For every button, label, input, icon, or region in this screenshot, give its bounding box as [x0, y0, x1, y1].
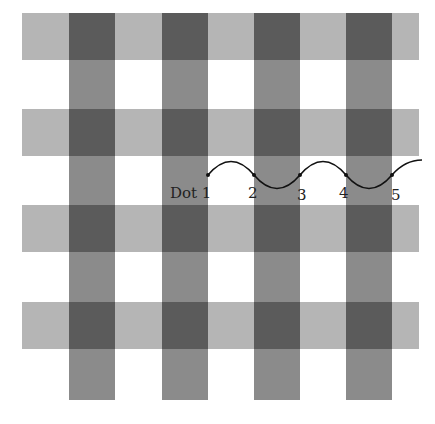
dot-label-2: 2	[248, 186, 258, 201]
dot-label-3: 3	[297, 188, 307, 203]
dot-1	[206, 173, 210, 177]
dot-4	[344, 173, 348, 177]
dot-3	[298, 173, 302, 177]
dot-2	[252, 173, 256, 177]
dot-label-5: 5	[391, 188, 401, 203]
dot-label-4: 4	[339, 186, 349, 201]
dot-5	[390, 173, 394, 177]
dot-arcs	[0, 0, 435, 424]
dot-label-1: Dot 1	[170, 186, 211, 201]
